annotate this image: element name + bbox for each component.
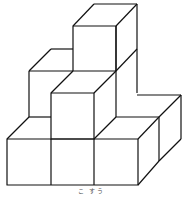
center-front-cube xyxy=(51,71,116,139)
top-cube xyxy=(73,4,137,117)
caption-text: こ すう xyxy=(0,187,183,195)
cube-stack-diagram xyxy=(0,0,183,197)
right-back-cubes xyxy=(116,95,181,161)
bottom-front-row xyxy=(7,117,159,185)
